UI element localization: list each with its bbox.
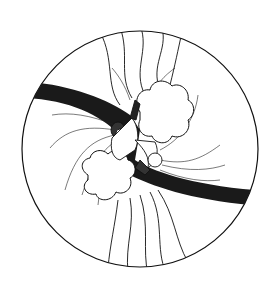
illustration	[0, 0, 280, 294]
illustration-drawing	[0, 0, 280, 294]
circle-frame	[22, 31, 258, 267]
upper-right-cloud	[137, 81, 194, 143]
